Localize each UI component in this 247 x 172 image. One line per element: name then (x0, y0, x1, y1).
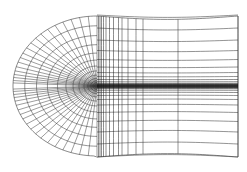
mesh-figure (0, 0, 247, 172)
mesh-canvas (0, 0, 247, 172)
body-surface-group (97, 84, 238, 88)
